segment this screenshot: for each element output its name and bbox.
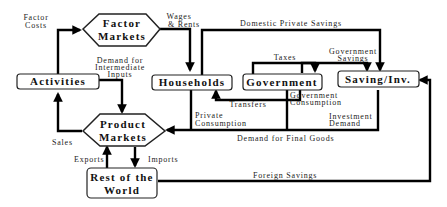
intermediate-demand-label-3: Inputs <box>108 70 133 79</box>
factor-markets-label-1: Factor <box>103 17 141 29</box>
wages-rents-arrow <box>160 29 190 70</box>
saving-investment-node: Saving/Inv. <box>338 71 419 87</box>
factor-markets-node: Factor Markets <box>83 14 160 46</box>
demand-final-goods-label: Demand for Final Goods <box>237 134 334 143</box>
government-label: Government <box>246 76 317 88</box>
wages-rents-label-2: & Rents <box>168 20 200 29</box>
diagram-canvas: Factor Markets Activities Households Gov… <box>0 0 447 207</box>
product-markets-node: Product Markets <box>83 114 165 146</box>
product-markets-label-2: Markets <box>99 131 147 143</box>
intermediate-demand-arrow <box>99 80 122 112</box>
sales-label: Sales <box>52 138 73 147</box>
sales-arrow <box>58 94 82 131</box>
imports-label: Imports <box>148 155 179 164</box>
government-savings-label-2: Savings <box>338 54 369 63</box>
factor-markets-label-2: Markets <box>98 30 146 42</box>
rest-of-world-label-2: World <box>104 184 140 196</box>
product-markets-label-1: Product <box>100 118 146 130</box>
exports-label: Exports <box>74 155 105 164</box>
factor-costs-arrow <box>58 30 80 80</box>
households-node: Households <box>152 75 232 90</box>
factor-costs-label-2: Costs <box>25 21 47 30</box>
activities-label: Activities <box>30 75 86 87</box>
activities-node: Activities <box>17 74 99 89</box>
households-label: Households <box>159 76 225 88</box>
rest-of-world-label-1: Rest of the <box>90 171 153 183</box>
saving-investment-label: Saving/Inv. <box>345 73 411 85</box>
foreign-savings-label: Foreign Savings <box>253 171 317 180</box>
transfers-label: Transfers <box>229 100 266 109</box>
taxes-label: Taxes <box>274 53 297 62</box>
domestic-private-savings-label: Domestic Private Savings <box>240 19 342 28</box>
private-consumption-label-2: Consumption <box>195 119 247 128</box>
rest-of-world-node: Rest of the World <box>87 168 157 198</box>
investment-demand-label-2: Demand <box>329 119 361 128</box>
taxes-arrow <box>253 63 315 75</box>
government-consumption-label-2: Consumption <box>290 98 342 107</box>
government-node: Government <box>243 74 322 90</box>
